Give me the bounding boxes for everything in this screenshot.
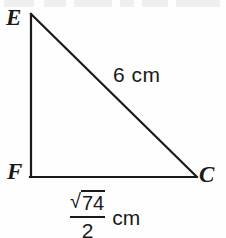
triangle-figure: E F C 6 cm √ 74 2 cm	[0, 0, 226, 238]
vertex-label-f: F	[7, 160, 22, 183]
fraction-denominator: 2	[70, 218, 105, 238]
vertex-label-e: E	[6, 6, 21, 29]
radicand-row: √ 74	[70, 190, 105, 215]
triangle-side-ec	[31, 14, 197, 177]
radical-fraction: √ 74 2	[70, 190, 105, 238]
radicand-value: 74	[81, 190, 105, 214]
radical-sign-icon: √	[70, 191, 81, 212]
base-measure-unit: cm	[112, 205, 140, 228]
vertex-label-c: C	[199, 163, 214, 186]
base-measure-label: √ 74 2 cm	[70, 190, 140, 238]
hypotenuse-measure-label: 6 cm	[113, 64, 161, 85]
